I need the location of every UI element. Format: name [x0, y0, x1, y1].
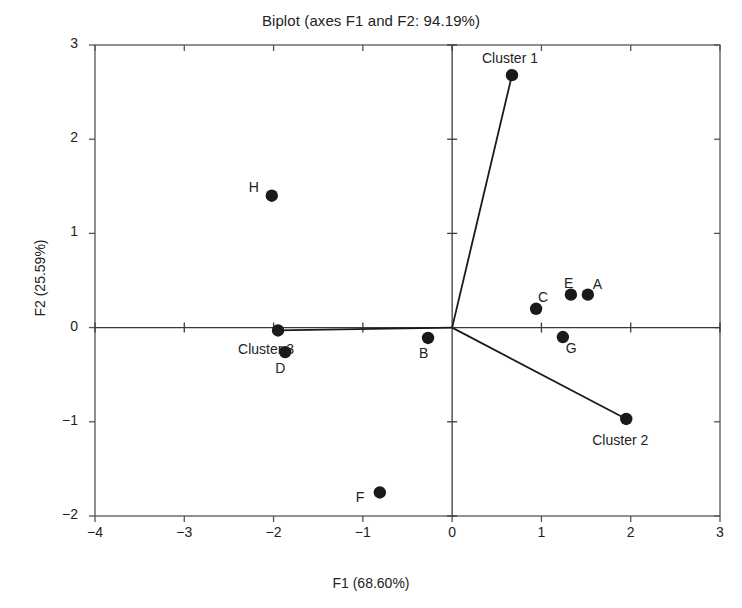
- plot-canvas: [0, 0, 742, 608]
- cluster-vector-line: [452, 75, 512, 327]
- observation-marker[interactable]: [266, 190, 278, 202]
- cluster-marker[interactable]: [620, 413, 632, 425]
- x-tick-label: 3: [700, 524, 740, 540]
- biplot-figure: Biplot (axes F1 and F2: 94.19%) F1 (68.6…: [0, 0, 742, 608]
- y-tick-label: 0: [38, 318, 78, 334]
- y-axis-title: F2 (25.59%): [32, 198, 48, 358]
- x-axis-title: F1 (68.60%): [0, 575, 742, 591]
- observation-label: G: [566, 340, 577, 356]
- observation-label: A: [593, 276, 602, 292]
- cluster-marker[interactable]: [272, 324, 284, 336]
- y-tick-label: 3: [38, 35, 78, 51]
- observation-label: F: [356, 489, 365, 505]
- observation-label: H: [249, 179, 259, 195]
- y-tick-label: 2: [38, 129, 78, 145]
- observation-marker[interactable]: [422, 332, 434, 344]
- cluster-label: Cluster 1: [482, 50, 538, 66]
- x-tick-label: −3: [164, 524, 204, 540]
- y-tick-label: −2: [38, 506, 78, 522]
- cluster-marker[interactable]: [506, 69, 518, 81]
- x-tick-label: 1: [521, 524, 561, 540]
- y-tick-label: −1: [38, 412, 78, 428]
- x-tick-label: −4: [75, 524, 115, 540]
- observation-marker[interactable]: [374, 486, 386, 498]
- observation-label: D: [275, 360, 285, 376]
- cluster-vector-line: [452, 328, 626, 419]
- x-tick-label: −2: [254, 524, 294, 540]
- x-tick-label: −1: [343, 524, 383, 540]
- observation-label: B: [419, 345, 428, 361]
- cluster-label: Cluster 2: [592, 432, 648, 448]
- cluster-label: Cluster 3: [238, 341, 294, 357]
- observation-label: C: [538, 289, 548, 305]
- x-tick-label: 0: [432, 524, 472, 540]
- observation-label: E: [564, 275, 573, 291]
- y-tick-label: 1: [38, 223, 78, 239]
- x-tick-label: 2: [611, 524, 651, 540]
